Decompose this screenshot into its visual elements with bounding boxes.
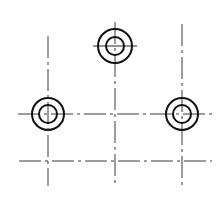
technical-drawing <box>0 0 220 200</box>
